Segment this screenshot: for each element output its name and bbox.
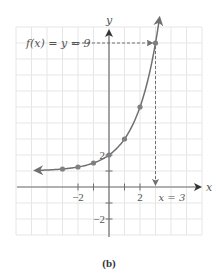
x-tick-label: −2 xyxy=(72,191,84,203)
labels: x y f(x) = y = 9 x = 3 (b) xyxy=(25,14,213,270)
guide-lines xyxy=(72,43,156,185)
axes xyxy=(17,31,200,237)
data-point xyxy=(91,160,96,165)
data-point xyxy=(106,152,111,157)
y-tick-label: −2 xyxy=(93,213,105,225)
x-value-label: x = 3 xyxy=(159,192,186,203)
figure-caption: (b) xyxy=(102,257,116,270)
curve-arrow-up xyxy=(159,19,160,24)
data-point xyxy=(60,166,65,171)
x-axis-label: x xyxy=(206,181,213,194)
x-tick-label: 2 xyxy=(137,191,143,203)
data-point xyxy=(75,164,80,169)
function-value-label: f(x) = y = 9 xyxy=(25,37,91,50)
data-point xyxy=(153,40,158,45)
exponential-graph: −22−22 x y f(x) = y = 9 x = 3 (b) xyxy=(0,0,219,277)
data-point xyxy=(137,104,142,109)
data-point xyxy=(122,136,127,141)
y-axis-label: y xyxy=(105,14,113,27)
